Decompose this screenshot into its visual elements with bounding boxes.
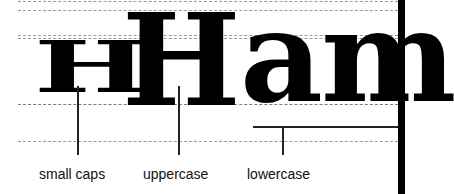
lowercase-leader	[282, 126, 284, 155]
uppercase-leader	[178, 86, 180, 155]
uppercase-label: uppercase	[143, 166, 208, 182]
right-edge-bar	[398, 0, 405, 194]
lowercase-leader-horizontal	[253, 126, 398, 128]
lowercase-label: lowercase	[247, 166, 310, 182]
small-caps-leader	[77, 86, 79, 155]
uppercase-glyph: H	[122, 0, 241, 124]
small-caps-label: small caps	[39, 166, 105, 182]
lowercase-glyphs: am	[240, 0, 454, 120]
